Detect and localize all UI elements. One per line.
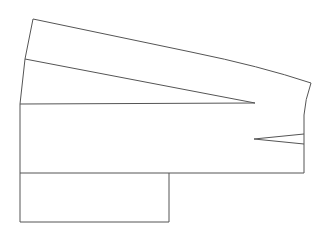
pattern-drawing xyxy=(0,0,329,239)
pattern-outline xyxy=(20,19,311,173)
horizontal-dart-line xyxy=(20,103,255,104)
slanted-dart-line xyxy=(25,59,255,103)
pattern-canvas xyxy=(0,0,329,239)
lower-box xyxy=(20,173,169,222)
small-dart xyxy=(254,134,304,144)
